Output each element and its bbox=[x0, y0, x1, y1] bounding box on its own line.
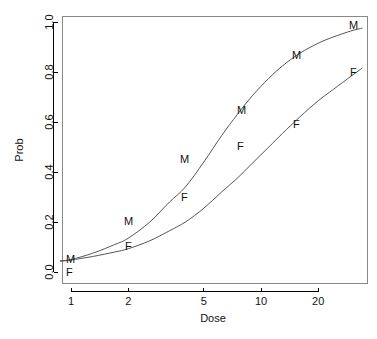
point-label-m-8: M bbox=[292, 49, 301, 61]
y-tick-label-5: 1.0 bbox=[43, 14, 55, 29]
point-label-m-2: M bbox=[124, 215, 133, 227]
dose-response-chart: MFMFMFMFMFMF 0.00.20.40.60.81.0 1251020 … bbox=[0, 0, 377, 339]
plot-canvas: MFMFMFMFMFMF 0.00.20.40.60.81.0 1251020 … bbox=[0, 0, 377, 339]
x-tick-label-4: 20 bbox=[312, 295, 324, 307]
point-label-m-0: M bbox=[66, 253, 75, 265]
y-tick-label-3: 0.6 bbox=[43, 114, 55, 129]
point-label-m-6: M bbox=[237, 104, 246, 116]
point-label-f-3: F bbox=[125, 240, 132, 252]
point-label-f-5: F bbox=[181, 191, 188, 203]
x-tick-label-2: 5 bbox=[201, 295, 207, 307]
x-tick-label-0: 1 bbox=[68, 295, 74, 307]
point-label-m-10: M bbox=[349, 19, 358, 31]
y-tick-label-4: 0.8 bbox=[43, 64, 55, 79]
point-label-f-11: F bbox=[350, 66, 357, 78]
x-axis-title: Dose bbox=[200, 312, 226, 324]
y-tick-label-1: 0.2 bbox=[43, 214, 55, 229]
chart-background bbox=[0, 0, 377, 339]
x-tick-label-3: 10 bbox=[255, 295, 267, 307]
y-tick-label-2: 0.4 bbox=[43, 164, 55, 179]
point-label-f-9: F bbox=[293, 118, 300, 130]
y-tick-label-0: 0.0 bbox=[43, 264, 55, 279]
x-tick-label-1: 2 bbox=[125, 295, 131, 307]
point-label-f-7: F bbox=[237, 140, 244, 152]
point-label-f-1: F bbox=[66, 266, 73, 278]
y-axis-title: Prob bbox=[13, 138, 25, 161]
point-label-m-4: M bbox=[180, 153, 189, 165]
